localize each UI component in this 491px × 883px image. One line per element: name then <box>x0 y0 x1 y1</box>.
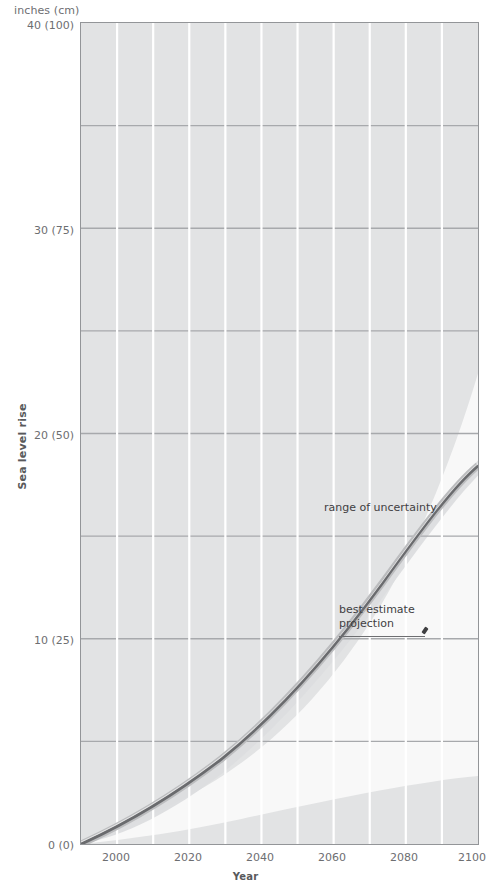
y-axis-tick-labels: 40 (100) 30 (75) 20 (50) 10 (25) 0 (0) <box>0 0 74 883</box>
x-tick-label: 2040 <box>246 851 274 864</box>
x-tick-label: 2000 <box>102 851 130 864</box>
y-tick-label: 10 (25) <box>0 634 74 647</box>
y-tick-label: 30 (75) <box>0 224 74 237</box>
plot-inner: range of uncertainty best estimate proje… <box>81 23 478 844</box>
annotation-range-of-uncertainty: range of uncertainty <box>324 501 437 515</box>
y-tick-label: 20 (50) <box>0 429 74 442</box>
x-axis-title: Year <box>0 871 491 882</box>
y-tick-label: 40 (100) <box>0 19 74 32</box>
x-tick-label: 2060 <box>318 851 346 864</box>
x-tick-label: 2080 <box>390 851 418 864</box>
x-tick-label: 2020 <box>174 851 202 864</box>
sea-level-rise-chart: inches (cm) Sea level rise 40 (100) 30 (… <box>0 0 491 883</box>
x-tick-label: 2100 <box>458 851 486 864</box>
plot-area: range of uncertainty best estimate proje… <box>80 22 479 845</box>
y-tick-label: 0 (0) <box>0 839 74 852</box>
annotation-leader-line <box>339 636 425 637</box>
annotation-best-estimate: best estimate projection <box>339 603 415 631</box>
chart-plot-svg <box>81 23 478 844</box>
